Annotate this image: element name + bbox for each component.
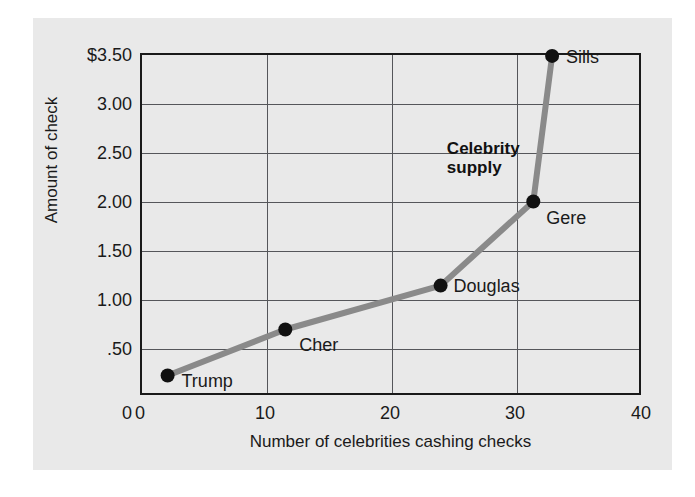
y-tick-label-3-50: $3.50 <box>46 46 132 64</box>
gridline-v-10 <box>267 55 268 393</box>
chart-figure: Amount of check $3.50 3.00 2.50 2.00 1.5… <box>0 0 695 497</box>
x-tick-label-0: 0 <box>110 404 170 422</box>
x-tick-label-40: 40 <box>611 404 671 422</box>
gridline-v-30 <box>517 55 518 393</box>
y-tick-label-0-50: .50 <box>46 340 132 358</box>
y-tick-label-2-50: 2.50 <box>46 144 132 162</box>
y-tick-label-3-00: 3.00 <box>46 95 132 113</box>
point-label-cher: Cher <box>299 336 338 354</box>
point-label-sills: Sills <box>566 48 599 66</box>
point-label-douglas: Douglas <box>454 277 520 295</box>
gridline-h-1-00 <box>142 300 639 301</box>
gridline-h-2-50 <box>142 153 639 154</box>
gridline-h-2-00 <box>142 202 639 203</box>
gridline-h-0-50 <box>142 349 639 350</box>
point-label-trump: Trump <box>182 372 233 390</box>
gridline-h-1-50 <box>142 251 639 252</box>
x-axis-title: Number of celebrities cashing checks <box>140 432 641 452</box>
y-tick-label-2-00: 2.00 <box>46 193 132 211</box>
point-label-gere: Gere <box>546 209 586 227</box>
y-tick-label-1-00: 1.00 <box>46 291 132 309</box>
gridline-v-20 <box>392 55 393 393</box>
gridline-h-3-00 <box>142 104 639 105</box>
series-annotation-celebrity-supply: Celebrity supply <box>447 139 520 177</box>
x-tick-label-10: 10 <box>235 404 295 422</box>
x-tick-label-20: 20 <box>360 404 420 422</box>
y-tick-label-1-50: 1.50 <box>46 242 132 260</box>
x-tick-label-30: 30 <box>485 404 545 422</box>
